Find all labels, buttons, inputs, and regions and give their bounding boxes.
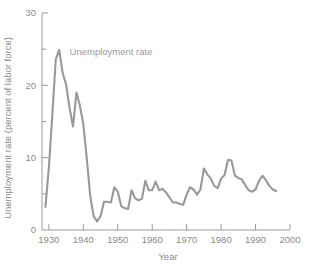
unemployment-rate-chart-figure: 0102030 19301940195019601970198019902000… bbox=[0, 0, 316, 264]
y-tick-label: 0 bbox=[31, 224, 36, 235]
x-tick-label: 1960 bbox=[142, 234, 163, 245]
y-tick-label: 30 bbox=[25, 7, 36, 18]
x-tick-label: 1990 bbox=[245, 234, 266, 245]
x-tick-label: 1980 bbox=[211, 234, 232, 245]
y-axis-minor-ticks bbox=[42, 49, 46, 194]
chart-canvas: 0102030 19301940195019601970198019902000… bbox=[0, 0, 316, 264]
series-annotation-group: Unemployment rate bbox=[70, 46, 153, 57]
y-axis-major-ticks bbox=[42, 13, 48, 158]
x-tick-label: 1970 bbox=[176, 234, 197, 245]
x-tick-label: 2000 bbox=[279, 234, 300, 245]
y-axis-tick-labels: 0102030 bbox=[25, 7, 36, 235]
x-axis-title: Year bbox=[158, 251, 177, 262]
y-axis-title: Unemployment rate (percent of labor forc… bbox=[2, 37, 13, 219]
series-inline-label: Unemployment rate bbox=[70, 46, 153, 57]
x-axis-major-ticks bbox=[49, 224, 290, 230]
x-axis-tick-labels: 19301940195019601970198019902000 bbox=[38, 234, 300, 245]
x-tick-label: 1930 bbox=[38, 234, 59, 245]
y-tick-label: 20 bbox=[25, 80, 36, 91]
x-tick-label: 1950 bbox=[107, 234, 128, 245]
y-tick-label: 10 bbox=[25, 152, 36, 163]
unemployment-rate-line bbox=[45, 50, 276, 221]
x-tick-label: 1940 bbox=[73, 234, 94, 245]
